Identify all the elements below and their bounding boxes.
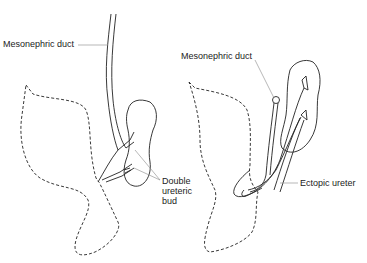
double-ureteric-bud-label-line1: Double	[162, 176, 191, 186]
right-calyx-upper	[302, 76, 308, 90]
right-mesonephric-duct	[250, 103, 278, 192]
ectopic-ureter-label: Ectopic ureter	[300, 178, 356, 188]
right-mesonephric-duct-label: Mesonephric duct	[181, 51, 252, 61]
double-ureteric-bud-label-line2: ureteric	[162, 186, 192, 196]
left-bud-leader-1	[135, 150, 160, 180]
right-panel-drawing	[189, 60, 320, 252]
left-sinus-outline	[21, 85, 119, 255]
left-kidney	[124, 100, 156, 186]
left-bud-leader-2	[134, 168, 160, 180]
left-panel-drawing	[21, 14, 160, 255]
right-duct-leader	[255, 60, 274, 98]
right-calyx-lower	[301, 110, 307, 120]
left-mesonephric-duct-label: Mesonephric duct	[3, 39, 74, 49]
left-mesonephric-duct-outer	[98, 14, 118, 182]
left-mesonephric-duct-inner	[112, 14, 126, 148]
right-sinus-outline	[189, 82, 258, 252]
double-ureteric-bud-label-line3: bud	[162, 196, 177, 206]
diagram-canvas: Mesonephric duct Double ureteric bud Mes…	[0, 0, 367, 263]
